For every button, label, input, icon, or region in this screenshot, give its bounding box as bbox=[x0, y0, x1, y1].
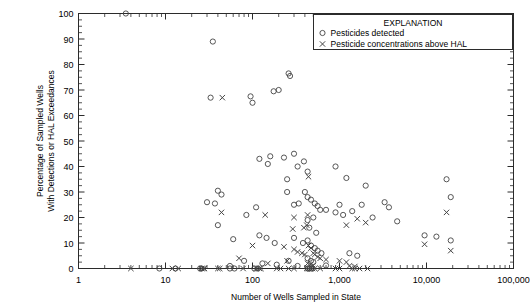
y-tick-label: 90 bbox=[63, 35, 73, 45]
y-tick-label: 80 bbox=[63, 60, 73, 70]
data-point-circle bbox=[295, 263, 300, 268]
x-tick-label: 100,000 bbox=[497, 275, 530, 285]
data-point-circle bbox=[231, 237, 236, 242]
data-point-circle bbox=[422, 233, 427, 238]
scatter-plot: 1101001,00010,000100,0000102030405060708… bbox=[0, 0, 532, 304]
data-point-circle bbox=[219, 192, 224, 197]
data-point-circle bbox=[370, 215, 375, 220]
y-axis-title-line1: Percentage of Sampled Wells bbox=[35, 85, 45, 197]
data-point-circle bbox=[260, 261, 265, 266]
data-point-circle bbox=[382, 200, 387, 205]
data-point-circle bbox=[250, 100, 255, 105]
plot-frame bbox=[79, 14, 514, 269]
legend-entry-label-0: Pesticides detected bbox=[331, 28, 405, 38]
y-tick-label: 100 bbox=[58, 9, 73, 19]
y-axis-title-line2: With Detections or HAL Exceedances bbox=[46, 70, 56, 211]
y-tick-label: 60 bbox=[63, 111, 73, 121]
series-above-hal bbox=[128, 95, 453, 271]
x-axis-major-ticks: 1101001,00010,000100,000 bbox=[76, 14, 530, 285]
data-point-circle bbox=[305, 169, 310, 174]
legend: EXPLANATIONPesticides detectedPesticide … bbox=[314, 15, 513, 50]
data-point-circle bbox=[395, 219, 400, 224]
data-point-circle bbox=[271, 89, 276, 94]
data-point-circle bbox=[434, 234, 439, 239]
legend-title: EXPLANATION bbox=[384, 18, 443, 28]
data-point-circle bbox=[444, 177, 449, 182]
data-point-circle bbox=[291, 235, 296, 240]
data-point-circle bbox=[276, 87, 281, 92]
data-point-circle bbox=[347, 251, 352, 256]
data-point-circle bbox=[285, 189, 290, 194]
data-point-circle bbox=[359, 202, 364, 207]
scatter-chart-container: 1101001,00010,000100,0000102030405060708… bbox=[0, 0, 532, 304]
y-tick-label: 30 bbox=[63, 188, 73, 198]
data-point-circle bbox=[296, 201, 301, 206]
data-point-circle bbox=[285, 177, 290, 182]
legend-entry-label-1: Pesticide concentrations above HAL bbox=[331, 39, 468, 49]
data-point-circle bbox=[248, 94, 253, 99]
data-point-circle bbox=[448, 238, 453, 243]
data-point-circle bbox=[208, 95, 213, 100]
y-tick-label: 40 bbox=[63, 162, 73, 172]
data-point-circle bbox=[241, 258, 246, 263]
data-point-circle bbox=[302, 189, 307, 194]
data-point-circle bbox=[244, 212, 249, 217]
data-point-circle bbox=[344, 175, 349, 180]
data-point-circle bbox=[301, 159, 306, 164]
data-point-circle bbox=[311, 215, 316, 220]
y-tick-label: 20 bbox=[63, 213, 73, 223]
y-tick-label: 50 bbox=[63, 137, 73, 147]
data-point-circle bbox=[350, 209, 355, 214]
y-tick-label: 70 bbox=[63, 86, 73, 96]
data-point-circle bbox=[314, 230, 319, 235]
data-point-circle bbox=[363, 183, 368, 188]
data-point-circle bbox=[212, 201, 217, 206]
x-tick-label: 1 bbox=[76, 275, 81, 285]
x-tick-label: 100 bbox=[245, 275, 260, 285]
data-point-circle bbox=[337, 202, 342, 207]
x-tick-label: 10 bbox=[160, 275, 170, 285]
data-point-circle bbox=[448, 195, 453, 200]
data-point-circle bbox=[257, 156, 262, 161]
data-point-circle bbox=[305, 238, 310, 243]
y-tick-label: 10 bbox=[63, 239, 73, 249]
data-point-circle bbox=[254, 205, 259, 210]
x-tick-label: 10,000 bbox=[413, 275, 441, 285]
data-point-circle bbox=[333, 210, 338, 215]
data-point-circle bbox=[281, 155, 286, 160]
data-point-circle bbox=[323, 207, 328, 212]
x-tick-label: 1,000 bbox=[328, 275, 351, 285]
data-point-circle bbox=[204, 200, 209, 205]
data-point-circle bbox=[318, 207, 323, 212]
x-axis-minor-ticks bbox=[105, 14, 510, 269]
data-point-circle bbox=[291, 151, 296, 156]
x-axis-title: Number of Wells Sampled in State bbox=[231, 292, 361, 302]
data-point-circle bbox=[215, 223, 220, 228]
data-point-circle bbox=[333, 164, 338, 169]
data-point-circle bbox=[272, 240, 277, 245]
data-point-circle bbox=[305, 217, 310, 222]
data-point-circle bbox=[264, 235, 269, 240]
data-point-circle bbox=[268, 154, 273, 159]
data-point-circle bbox=[295, 164, 300, 169]
y-tick-label: 0 bbox=[68, 264, 73, 274]
data-point-circle bbox=[341, 212, 346, 217]
data-point-circle bbox=[265, 161, 270, 166]
data-point-circle bbox=[257, 233, 262, 238]
data-point-circle bbox=[210, 39, 215, 44]
data-point-circle bbox=[355, 253, 360, 258]
data-point-circle bbox=[386, 205, 391, 210]
